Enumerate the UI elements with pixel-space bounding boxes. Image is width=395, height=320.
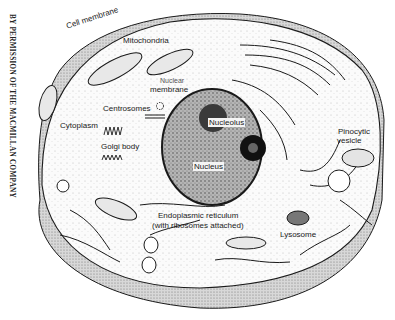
label-endoplasmic-reticulum-line1: Endoplasmic reticulum	[158, 211, 238, 220]
label-lysosome: Lysosome	[280, 230, 316, 239]
label-mitochondria: Mitochondria	[123, 36, 169, 45]
cell-illustration	[0, 0, 395, 320]
label-nuclear-membrane-line2: membrane	[150, 85, 188, 94]
cell-diagram: BY PERMISSION OF THE MACMILLAN COMPANY	[0, 0, 395, 320]
label-nucleolus: Nucleolus	[208, 118, 245, 127]
label-golgi-body: Golgi body	[101, 142, 139, 151]
label-nucleus: Nucleus	[193, 162, 224, 171]
label-pinocytic-vesicle-line2: vesicle	[337, 136, 361, 145]
label-nuclear-membrane-line1: Nuclear	[160, 76, 184, 85]
label-pinocytic-vesicle-line1: Pinocytic	[338, 127, 370, 136]
label-cytoplasm: Cytoplasm	[60, 121, 98, 130]
label-endoplasmic-reticulum-line2: (with ribosomes attached)	[152, 221, 244, 230]
label-centrosomes: Centrosomes	[103, 104, 151, 113]
